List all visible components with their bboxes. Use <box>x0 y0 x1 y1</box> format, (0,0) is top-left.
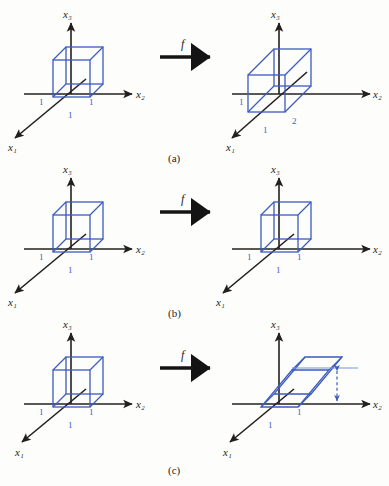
axis-label-x3: x₃ <box>62 163 72 175</box>
caption-b: (b) <box>168 307 181 319</box>
axis-x1 <box>15 79 86 138</box>
cube-edge-tr <box>90 47 103 60</box>
axis-label-x1: x₁ <box>14 446 24 458</box>
caption-c: (c) <box>168 464 180 476</box>
tick-depth-two: 2 <box>292 116 297 126</box>
box-edge-bl <box>248 86 274 112</box>
shear-back-face <box>274 357 342 394</box>
axes-c-left <box>22 333 132 442</box>
map-label-f: f <box>181 37 186 51</box>
axes-c-right <box>230 333 370 442</box>
tick-x1-one: 1 <box>39 407 44 417</box>
box-edge-br <box>285 86 311 112</box>
cube-edge-bl <box>53 239 66 252</box>
tick-x3-one: 1 <box>68 420 73 430</box>
cube-edge-tr <box>298 202 311 215</box>
caption-a: (a) <box>168 152 180 164</box>
tick-x1-one: 1 <box>39 97 44 107</box>
axes-b-left <box>15 178 132 293</box>
tick-x3-one: 1 <box>276 265 281 275</box>
axis-label-x3: x₃ <box>270 318 280 330</box>
tick-x3-one: 1 <box>268 420 273 430</box>
axis-label-x1: x₁ <box>7 296 17 308</box>
tick-x2-one: 1 <box>297 252 302 262</box>
axis-label-x2: x₂ <box>135 398 145 410</box>
cube-edge-tl <box>53 357 66 370</box>
box-c-target-sheared <box>261 357 342 407</box>
axis-label-x3: x₃ <box>62 318 72 330</box>
axes-a-left <box>15 23 132 138</box>
cube-b-source <box>53 202 103 252</box>
cube-edge-bl <box>53 394 66 407</box>
panel-a <box>15 23 370 138</box>
cube-c-source <box>53 357 103 407</box>
figure-canvas: x₃ x₂ x₁ 1 1 1 f x₃ x₂ x₁ 1 2 1 x₃ x₂ x₁… <box>0 0 389 486</box>
tick-x2-one: 1 <box>89 97 94 107</box>
cube-b-target <box>261 202 311 252</box>
cube-edge-br <box>90 239 103 252</box>
shear-front-face <box>261 370 329 407</box>
map-label-f: f <box>181 348 186 362</box>
box-edge-tl <box>248 49 274 75</box>
axis-label-x2: x₂ <box>372 243 382 255</box>
cube-a-source <box>53 47 103 97</box>
map-label-f: f <box>181 192 186 206</box>
tick-x1-one: 1 <box>239 97 244 107</box>
axis-x1 <box>22 389 86 442</box>
axis-label-x1: x₁ <box>222 446 232 458</box>
tick-x3-one: 1 <box>263 125 268 135</box>
tick-x1-one: 1 <box>39 252 44 262</box>
box-edge-tr <box>285 49 311 75</box>
cube-edge-tl <box>53 202 66 215</box>
axes-a-right <box>232 23 370 138</box>
tick-x2-one: 1 <box>89 407 94 417</box>
cube-edge-tr <box>90 357 103 370</box>
height-marker-c <box>292 368 358 401</box>
tick-x2-one: 1 <box>89 252 94 262</box>
cube-edge-br <box>298 239 311 252</box>
axis-x1 <box>15 234 86 293</box>
panel-c <box>22 333 370 442</box>
axes-b-right <box>223 178 370 293</box>
axis-label-x1: x₁ <box>215 296 225 308</box>
cube-edge-tr <box>90 202 103 215</box>
axis-label-x3: x₃ <box>270 8 280 20</box>
cube-edge-br <box>90 394 103 407</box>
axis-x1 <box>230 389 294 442</box>
tick-x3-one: 1 <box>68 110 73 120</box>
axis-label-x1: x₁ <box>7 141 17 153</box>
axis-label-x1: x₁ <box>225 141 235 153</box>
axis-label-x2: x₂ <box>135 88 145 100</box>
shear-edge-bl <box>261 394 274 407</box>
tick-x3-one: 1 <box>68 265 73 275</box>
axis-label-x2: x₂ <box>372 398 382 410</box>
tick-x1-one: 1 <box>247 252 252 262</box>
tick-x2-one: 1 <box>297 407 302 417</box>
cube-edge-bl <box>53 84 66 97</box>
panel-b <box>15 178 370 293</box>
cube-edge-bl <box>261 239 274 252</box>
axis-label-x2: x₂ <box>372 88 382 100</box>
axis-label-x2: x₂ <box>135 243 145 255</box>
cube-edge-br <box>90 84 103 97</box>
shear-edge-br <box>298 394 311 407</box>
cube-edge-tl <box>53 47 66 60</box>
figure-root: x₃ x₂ x₁ 1 1 1 f x₃ x₂ x₁ 1 2 1 x₃ x₂ x₁… <box>0 0 389 486</box>
axis-label-x3: x₃ <box>270 163 280 175</box>
text-labels: x₃ x₂ x₁ 1 1 1 f x₃ x₂ x₁ 1 2 1 x₃ x₂ x₁… <box>7 8 382 458</box>
axis-x1 <box>223 234 294 293</box>
cube-edge-tl <box>261 202 274 215</box>
axis-label-x3: x₃ <box>62 8 72 20</box>
